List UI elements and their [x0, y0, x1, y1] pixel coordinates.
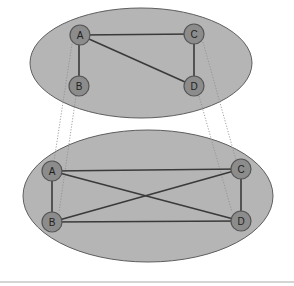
top-node-b: B: [69, 76, 89, 96]
bottom-node-d: D: [231, 211, 251, 231]
svg-text:D: D: [190, 81, 197, 92]
edge-a-c: [80, 34, 194, 35]
bottom-node-a: A: [42, 161, 62, 181]
top-node-c: C: [184, 24, 204, 44]
svg-text:C: C: [237, 164, 244, 175]
edge-b-d: [52, 221, 241, 222]
svg-text:C: C: [190, 29, 197, 40]
svg-text:A: A: [77, 30, 84, 41]
svg-text:B: B: [76, 81, 83, 92]
horizontal-divider: [0, 281, 294, 283]
svg-text:B: B: [49, 217, 56, 228]
top-node-a: A: [70, 25, 90, 45]
bottom-node-c: C: [231, 159, 251, 179]
graph-diagram: A B C D A B C D: [0, 0, 294, 286]
bottom-node-b: B: [42, 212, 62, 232]
svg-text:D: D: [237, 216, 244, 227]
top-node-d: D: [184, 76, 204, 96]
svg-text:A: A: [49, 166, 56, 177]
